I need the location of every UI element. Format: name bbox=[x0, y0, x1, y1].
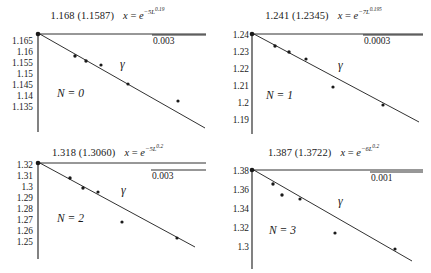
data-point bbox=[73, 54, 76, 57]
chart-panel-N0: 1.168 (1.1587)x = e−5L0.19 0.003 1.165 1… bbox=[0, 0, 215, 136]
data-point bbox=[393, 247, 396, 250]
fit-line-N1 bbox=[252, 33, 419, 122]
data-point bbox=[250, 168, 255, 173]
fit-line-N0 bbox=[38, 33, 205, 128]
data-point bbox=[298, 197, 301, 200]
data-point bbox=[96, 190, 99, 193]
data-point bbox=[120, 220, 123, 223]
data-point bbox=[126, 82, 129, 85]
data-point bbox=[175, 236, 178, 239]
data-point bbox=[84, 59, 87, 62]
data-point bbox=[280, 193, 283, 196]
data-point bbox=[273, 44, 276, 47]
chart-panel-N1: 1.241 (1.2345)x = e−7L0.195 0.0003 1.24 … bbox=[216, 0, 431, 136]
data-point bbox=[271, 182, 274, 185]
data-point bbox=[68, 176, 71, 179]
data-point bbox=[36, 161, 41, 166]
data-point bbox=[333, 231, 336, 234]
data-point bbox=[250, 32, 255, 37]
data-point bbox=[81, 186, 84, 189]
data-point bbox=[381, 103, 384, 106]
plot-area-N1 bbox=[216, 0, 431, 136]
plot-area-N0 bbox=[0, 0, 215, 136]
data-point bbox=[331, 85, 334, 88]
data-point bbox=[99, 63, 102, 66]
plot-area-N2 bbox=[0, 137, 215, 273]
chart-panel-N2: 1.318 (1.3060)x = e−5L0.2 0.003 1.32 1.3… bbox=[0, 137, 215, 273]
fit-line-N3 bbox=[252, 169, 412, 261]
fit-line-N2 bbox=[38, 162, 195, 247]
chart-panel-N3: 1.387 (1.3722)x = e−6L0.2 0.001 1.38 1.3… bbox=[216, 137, 431, 273]
plot-area-N3 bbox=[216, 137, 431, 273]
data-point bbox=[36, 32, 41, 37]
data-point bbox=[176, 99, 179, 102]
data-point bbox=[287, 50, 290, 53]
data-point bbox=[304, 57, 307, 60]
figure-canvas: 1.168 (1.1587)x = e−5L0.19 0.003 1.165 1… bbox=[0, 0, 431, 273]
